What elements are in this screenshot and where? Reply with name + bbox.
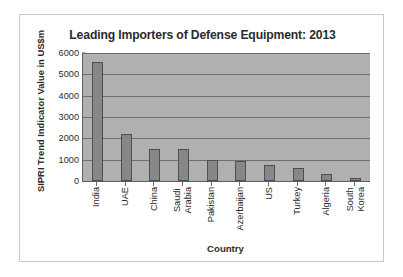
bar-slot: [83, 53, 112, 181]
x-category-label: SouthKorea: [344, 187, 365, 212]
x-category-label-line: Arabia: [182, 187, 192, 214]
bar[interactable]: [178, 149, 189, 181]
bar-slot: [140, 53, 169, 181]
x-tick-mark: [354, 182, 355, 186]
x-category-slot: Pakistan: [197, 187, 226, 247]
bar[interactable]: [264, 165, 275, 181]
x-category-label: UAE: [120, 187, 131, 206]
bar[interactable]: [92, 62, 103, 181]
bar-slot: [255, 53, 284, 181]
y-axis-title: SIPRI Trend Indicator Value in US$m: [35, 44, 46, 192]
x-category-slot: SaudiArabia: [168, 187, 197, 247]
plot-area: [82, 53, 370, 182]
x-category-label: Azerbaijan: [235, 187, 246, 230]
x-category-slot: India: [82, 187, 111, 247]
bar[interactable]: [321, 174, 332, 181]
x-category-slot: Turkey: [283, 187, 312, 247]
x-category-label-line: Korea: [355, 187, 365, 212]
x-tick-mark: [211, 182, 212, 186]
x-category-slot: Azerbaijan: [226, 187, 255, 247]
y-tick-label: 1000: [59, 155, 79, 165]
x-category-label: Algeria: [321, 187, 332, 216]
x-tick-mark: [153, 182, 154, 186]
x-tick-mark: [297, 182, 298, 186]
bar-slot: [341, 53, 370, 181]
x-tick-slot: [226, 182, 255, 186]
x-axis-title: Country: [82, 243, 369, 254]
x-tick-mark: [239, 182, 240, 186]
x-tick-slot: [111, 182, 140, 186]
y-axis-tick-labels: 0100020003000400050006000: [50, 53, 82, 181]
bar[interactable]: [149, 149, 160, 181]
x-tick-mark: [268, 182, 269, 186]
x-tick-mark: [96, 182, 97, 186]
x-category-label: US: [263, 187, 274, 200]
bar-slot: [227, 53, 256, 181]
x-category-slot: China: [139, 187, 168, 247]
x-tick-slot: [283, 182, 312, 186]
y-tick-label: 6000: [59, 48, 79, 58]
y-tick-label: 3000: [59, 112, 79, 122]
x-tick-slot: [340, 182, 369, 186]
x-category-label: Pakistan: [206, 187, 217, 222]
bar-series: [83, 53, 370, 181]
x-tick-slot: [312, 182, 341, 186]
bar-slot: [112, 53, 141, 181]
y-tick-label: 4000: [59, 91, 79, 101]
bar-slot: [169, 53, 198, 181]
x-category-label: Turkey: [292, 187, 303, 215]
x-tick-slot: [254, 182, 283, 186]
x-tick-slot: [82, 182, 111, 186]
x-category-slot: Algeria: [312, 187, 341, 247]
x-axis-category-labels: IndiaUAEChinaSaudiArabiaPakistanAzerbaij…: [82, 187, 369, 247]
y-tick-label: 0: [74, 176, 79, 186]
bar[interactable]: [350, 178, 361, 181]
x-tick-slot: [168, 182, 197, 186]
x-tick-slot: [197, 182, 226, 186]
x-category-label-line: South: [344, 187, 354, 211]
bar-slot: [284, 53, 313, 181]
y-tick-label: 2000: [59, 133, 79, 143]
bar-slot: [313, 53, 342, 181]
x-tick-mark: [325, 182, 326, 186]
bar[interactable]: [235, 161, 246, 181]
x-axis-tick-marks: [82, 182, 369, 186]
chart-figure: Leading Importers of Defense Equipment: …: [19, 14, 384, 262]
bar-slot: [198, 53, 227, 181]
x-category-label-line: Saudi: [172, 189, 182, 213]
x-category-slot: US: [254, 187, 283, 247]
x-category-label: SaudiArabia: [172, 187, 193, 214]
y-tick-label: 5000: [59, 69, 79, 79]
x-category-label: China: [149, 187, 160, 211]
x-category-slot: SouthKorea: [340, 187, 369, 247]
x-category-slot: UAE: [111, 187, 140, 247]
x-category-label: India: [91, 187, 102, 207]
x-tick-mark: [125, 182, 126, 186]
bar[interactable]: [121, 134, 132, 181]
bar[interactable]: [293, 168, 304, 181]
x-tick-slot: [139, 182, 168, 186]
bar[interactable]: [207, 160, 218, 181]
x-tick-mark: [182, 182, 183, 186]
chart-title: Leading Importers of Defense Equipment: …: [20, 28, 385, 42]
